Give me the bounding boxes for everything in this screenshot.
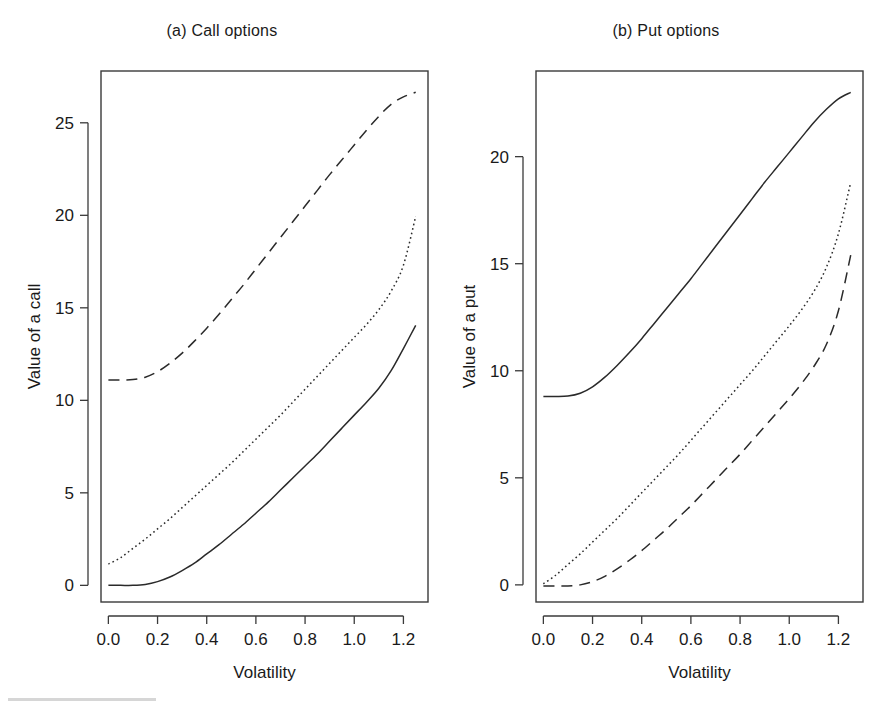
x-tick-label: 0.4 (195, 630, 219, 649)
y-tick-label: 10 (55, 391, 74, 410)
figure-canvas: (a) Call options 0.00.20.40.60.81.01.2Vo… (0, 0, 888, 707)
y-axis-title: Value of a call (25, 284, 44, 390)
series-line-solid (543, 92, 850, 396)
x-tick-label: 0.0 (97, 630, 121, 649)
x-tick-label: 0.8 (293, 630, 317, 649)
y-tick-label: 10 (490, 362, 509, 381)
y-tick-label: 20 (490, 148, 509, 167)
x-tick-label: 1.2 (392, 630, 416, 649)
x-tick-label: 0.4 (630, 630, 654, 649)
x-tick-label: 0.6 (679, 630, 703, 649)
x-tick-label: 0.2 (581, 630, 605, 649)
y-tick-label: 0 (500, 576, 509, 595)
x-tick-label: 1.0 (777, 630, 801, 649)
y-tick-label: 5 (500, 469, 509, 488)
chart-panel-put-options: (b) Put options 0.00.20.40.60.81.01.2Vol… (444, 0, 888, 707)
plot-frame (536, 71, 863, 602)
y-tick-label: 0 (65, 576, 74, 595)
x-tick-label: 0.0 (532, 630, 556, 649)
y-tick-label: 5 (65, 484, 74, 503)
series-line-dashed (108, 92, 415, 380)
y-tick-label: 25 (55, 114, 74, 133)
plot-frame (101, 71, 428, 602)
panel-b-plot: 0.00.20.40.60.81.01.2Volatility05101520V… (444, 0, 888, 707)
x-tick-label: 0.2 (146, 630, 170, 649)
x-tick-label: 1.2 (827, 630, 851, 649)
x-axis-title: Volatility (668, 663, 731, 682)
y-tick-label: 20 (55, 206, 74, 225)
y-axis-title: Value of a put (460, 284, 479, 388)
y-tick-label: 15 (490, 255, 509, 274)
x-axis-title: Volatility (233, 663, 296, 682)
series-line-dotted (108, 216, 415, 564)
x-tick-label: 0.8 (728, 630, 752, 649)
panel-a-plot: 0.00.20.40.60.81.01.2Volatility051015202… (0, 0, 444, 707)
chart-panel-call-options: (a) Call options 0.00.20.40.60.81.01.2Vo… (0, 0, 444, 707)
x-tick-label: 1.0 (342, 630, 366, 649)
x-tick-label: 0.6 (244, 630, 268, 649)
series-line-dotted (543, 182, 850, 583)
series-line-solid (108, 325, 415, 585)
y-tick-label: 15 (55, 299, 74, 318)
